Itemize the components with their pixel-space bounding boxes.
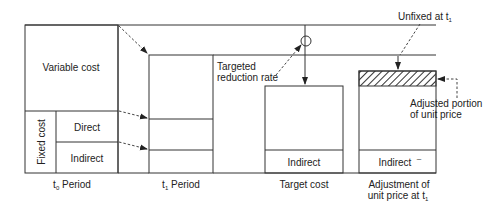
arrow-variable-to-t1 <box>119 26 147 53</box>
adjusted-portion-label-1: Adjusted portion <box>410 98 482 109</box>
arrow-indirect-to-t1 <box>119 142 147 149</box>
direct-label: Direct <box>74 122 100 133</box>
adjusted-portion-label-2: of unit price <box>410 109 462 120</box>
t0-period-label: t0 Period <box>53 179 91 191</box>
adjusted-portion-hatch <box>359 71 436 86</box>
t1-period-box <box>118 25 213 173</box>
target-cost-label: Target cost <box>280 179 329 190</box>
adjustment-box: Indirect – <box>359 71 436 173</box>
targeted-reduction-label-1: Targeted <box>217 61 256 72</box>
arrow-direct-to-t1 <box>119 111 147 118</box>
unfixed-pointer <box>400 24 420 55</box>
adjustment-label-2: unit price at t1 <box>368 190 429 202</box>
target-costing-diagram: Variable cost Fixed cost Direct Indirect… <box>0 0 497 211</box>
indirect-label: Indirect <box>71 153 104 164</box>
unfixed-label: Unfixed at t1 <box>398 11 453 23</box>
t1-period-label: t1 Period <box>162 179 200 191</box>
fixed-cost-label: Fixed cost <box>36 119 47 165</box>
adjust-mark: – <box>417 154 422 163</box>
adjusted-portion-pointer <box>438 79 457 98</box>
targeted-reduction-label-2: reduction rate <box>217 72 279 83</box>
target-cost-box: Indirect <box>265 86 343 173</box>
variable-cost-label: Variable cost <box>42 62 99 73</box>
reduction-rate-pointer <box>276 45 301 75</box>
reduction-circle-icon <box>301 36 311 46</box>
target-indirect-label: Indirect <box>288 157 321 168</box>
t0-period-box: Variable cost Fixed cost Direct Indirect <box>25 25 118 173</box>
adjust-indirect-label: Indirect <box>379 157 412 168</box>
adjustment-label-1: Adjustment of <box>368 179 429 190</box>
